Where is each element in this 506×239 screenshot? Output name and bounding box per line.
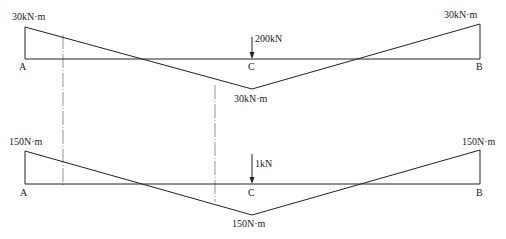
top-right-moment-label: 30kN·m xyxy=(444,10,477,20)
diagram-lines xyxy=(0,0,506,239)
top-load-label: 200kN xyxy=(255,34,282,44)
bottom-load-label: 1kN xyxy=(255,159,272,169)
top-point-c: C xyxy=(248,62,255,72)
bottom-point-a: A xyxy=(20,188,27,198)
bottom-point-c: C xyxy=(248,188,255,198)
bottom-mid-moment-label: 150N·m xyxy=(232,219,265,229)
bottom-load-arrow-icon xyxy=(250,177,255,184)
top-mid-moment-label: 30kN·m xyxy=(234,94,267,104)
top-load-arrow-icon xyxy=(250,52,255,59)
bending-moment-diagrams: 30kN·m 30kN·m 30kN·m 200kN A B C 150N·m … xyxy=(0,0,506,239)
top-left-moment-label: 30kN·m xyxy=(12,12,45,22)
bottom-point-b: B xyxy=(476,188,483,198)
bottom-right-moment-label: 150N·m xyxy=(462,137,495,147)
top-point-a: A xyxy=(19,62,26,72)
top-point-b: B xyxy=(476,62,483,72)
bottom-left-moment-label: 150N·m xyxy=(9,137,42,147)
reference-lines xyxy=(63,35,215,202)
